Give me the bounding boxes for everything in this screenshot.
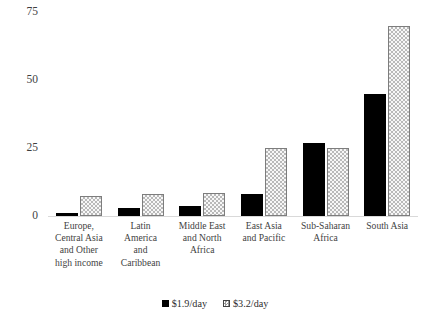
bar-group [356, 12, 418, 216]
x-axis-category-label-line: and North [172, 232, 232, 244]
x-axis-category-label-line: Central Asia [49, 232, 109, 244]
bar-group-bars [110, 12, 172, 216]
x-axis-category-label: Middle Eastand NorthAfrica [171, 220, 233, 269]
bar[interactable] [241, 194, 263, 216]
x-axis-category-label-line: Latin [111, 220, 171, 232]
x-axis-category-labels: Europe,Central Asiaand Otherhigh incomeL… [48, 220, 418, 269]
x-axis-category-label-line: Africa [296, 232, 356, 244]
x-axis-category-label-line: high income [49, 257, 109, 269]
y-tick-label: 75 [27, 6, 39, 18]
y-axis: 0255075 [0, 12, 48, 216]
x-axis-category-label-line: and [111, 244, 171, 256]
bar[interactable] [203, 193, 225, 216]
chart-legend: $1.9/day$3.2/day [0, 298, 430, 309]
bar-group-bars [48, 12, 110, 216]
bar-group [110, 12, 172, 216]
bar[interactable] [327, 148, 349, 216]
x-axis-category-label-line: and Pacific [234, 232, 294, 244]
bar-groups [48, 12, 418, 216]
bar[interactable] [388, 26, 410, 216]
bar[interactable] [265, 148, 287, 216]
bar-group [233, 12, 295, 216]
x-axis-category-label-line: Sub-Saharan [296, 220, 356, 232]
bar-group [171, 12, 233, 216]
bar[interactable] [118, 208, 140, 216]
x-axis-category-label: South Asia [356, 220, 418, 269]
bar-group-bars [356, 12, 418, 216]
x-axis-category-label-line: South Asia [357, 220, 417, 232]
x-axis-category-label-line: and Other [49, 244, 109, 256]
bar[interactable] [56, 213, 78, 216]
legend-swatch-icon [223, 300, 230, 307]
legend-item[interactable]: $3.2/day [223, 298, 268, 309]
bar-group [48, 12, 110, 216]
legend-item[interactable]: $1.9/day [162, 298, 207, 309]
legend-swatch-icon [162, 300, 169, 307]
bar[interactable] [80, 196, 102, 216]
bar[interactable] [303, 143, 325, 216]
bar[interactable] [364, 94, 386, 216]
y-tick-label: 25 [27, 142, 39, 154]
x-axis-category-label-line: East Asia [234, 220, 294, 232]
x-axis-category-label-line: Middle East [172, 220, 232, 232]
x-axis-category-label-line: Africa [172, 244, 232, 256]
bar[interactable] [142, 194, 164, 216]
x-axis-category-label: Sub-SaharanAfrica [295, 220, 357, 269]
x-axis-category-label-line: Caribbean [111, 257, 171, 269]
bar-group-bars [233, 12, 295, 216]
bar-group-bars [295, 12, 357, 216]
x-axis-baseline [48, 216, 418, 217]
x-axis-category-label: East Asiaand Pacific [233, 220, 295, 269]
x-axis-category-label-line: Europe, [49, 220, 109, 232]
y-tick-label: 0 [32, 210, 38, 222]
x-axis-category-label-line: America [111, 232, 171, 244]
legend-label: $1.9/day [172, 298, 207, 309]
grouped-bar-chart: 0255075 Europe,Central Asiaand Otherhigh… [0, 0, 430, 323]
bar-group [295, 12, 357, 216]
bar-group-bars [171, 12, 233, 216]
x-axis-category-label: LatinAmericaandCaribbean [110, 220, 172, 269]
bar[interactable] [179, 206, 201, 216]
x-axis-category-label: Europe,Central Asiaand Otherhigh income [48, 220, 110, 269]
y-tick-label: 50 [27, 74, 39, 86]
legend-label: $3.2/day [233, 298, 268, 309]
